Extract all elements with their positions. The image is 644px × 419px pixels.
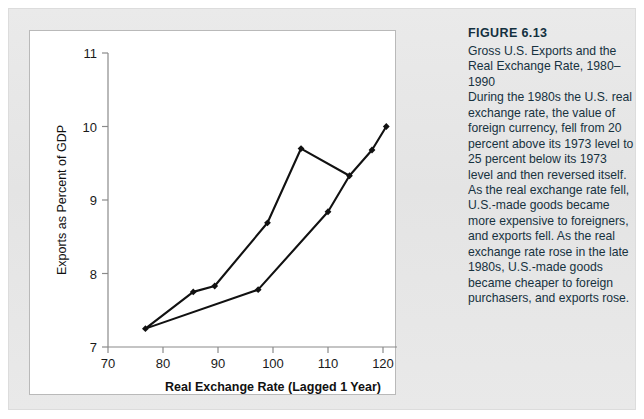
x-tick-label: 100: [262, 356, 284, 371]
exports-vs-exchange-rate-chart: 7891011708090100110120130 Real Exchange …: [30, 31, 397, 396]
x-tick-label: 110: [318, 356, 339, 371]
y-tick-label: 8: [90, 267, 97, 282]
chart-axes: [108, 53, 397, 347]
x-tick-label: 120: [372, 356, 394, 371]
y-tick-label: 9: [90, 193, 97, 208]
y-tick-label: 10: [83, 120, 97, 135]
x-tick-label: 80: [156, 356, 170, 371]
series-line: [349, 127, 386, 176]
y-tick-label: 7: [90, 340, 97, 355]
chart-tick-labels: 7891011708090100110120130: [83, 46, 397, 371]
figure-subtitle: Gross U.S. Exports and the Real Exchange…: [468, 44, 634, 90]
figure-page: 7891011708090100110120130 Real Exchange …: [0, 0, 644, 419]
series-line: [145, 149, 349, 329]
x-tick-label: 70: [101, 356, 115, 371]
figure-number-label: FIGURE 6.13: [468, 26, 634, 42]
x-axis-title: Real Exchange Rate (Lagged 1 Year): [165, 380, 381, 394]
chart-series: [145, 127, 386, 329]
figure-caption: FIGURE 6.13 Gross U.S. Exports and the R…: [468, 26, 634, 307]
x-tick-label: 90: [211, 356, 225, 371]
y-tick-label: 11: [84, 46, 98, 61]
figure-body-text: During the 1980s the U.S. real exchange …: [468, 90, 634, 307]
chart-tick-marks: [102, 53, 397, 353]
chart-panel: 7891011708090100110120130 Real Exchange …: [29, 30, 396, 395]
chart-data-markers: [142, 123, 390, 332]
y-axis-title: Exports as Percent of GDP: [55, 125, 69, 275]
